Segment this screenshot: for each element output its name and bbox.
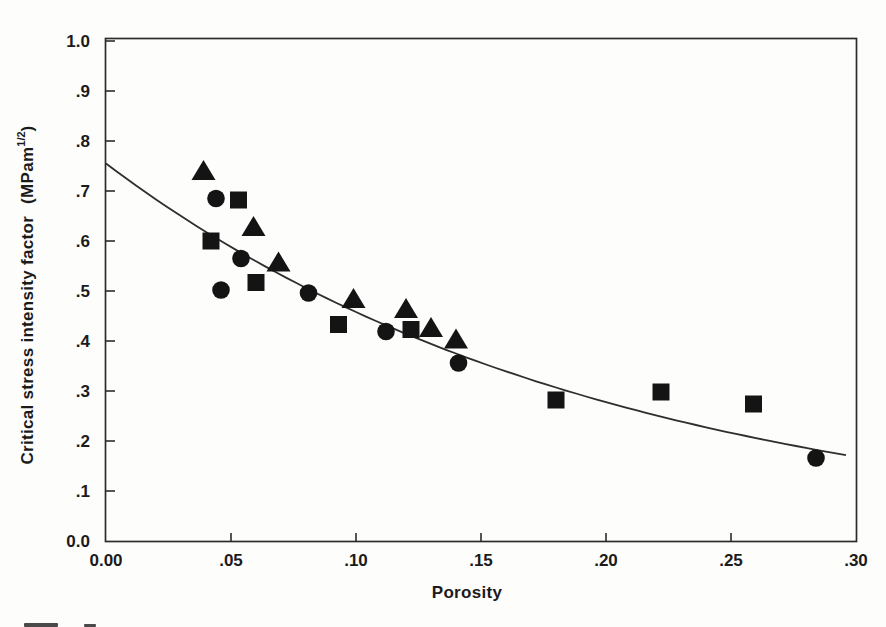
y-tick-label: .9 <box>76 82 90 101</box>
y-axis-title-text: Critical stress intensity factor <box>18 216 37 465</box>
x-tick-label: .05 <box>219 551 243 570</box>
data-point-circle <box>450 354 468 372</box>
y-tick-label: .3 <box>76 382 90 401</box>
data-point-square <box>745 396 762 413</box>
data-point-circle <box>207 190 225 208</box>
y-tick-label: .4 <box>76 332 91 351</box>
data-point-triangle <box>242 216 266 236</box>
x-tick-label: .10 <box>344 551 368 570</box>
y-tick-label: 0.0 <box>66 532 90 551</box>
x-axis-title: Porosity <box>106 583 828 603</box>
y-tick-label: .1 <box>76 482 90 501</box>
y-axis-units-exponent: 1/2 <box>15 131 27 146</box>
y-axis-units-close: ) <box>18 125 37 131</box>
data-point-triangle <box>419 317 443 337</box>
y-tick-label: .8 <box>76 132 90 151</box>
data-point-triangle <box>342 288 366 308</box>
y-axis-units-open: (MPam <box>18 147 37 204</box>
data-point-circle <box>232 250 250 268</box>
y-tick-label: 1.0 <box>66 32 90 51</box>
data-point-square <box>203 233 220 250</box>
data-point-circle <box>300 284 318 302</box>
data-point-square <box>330 316 347 333</box>
data-point-square <box>653 384 670 401</box>
y-tick-label: .2 <box>76 432 90 451</box>
data-point-triangle <box>444 329 468 349</box>
cropped-caption-fragment <box>24 623 58 627</box>
data-point-circle <box>807 449 825 467</box>
y-axis-title: Critical stress intensity factor(MPam1/2… <box>16 125 38 464</box>
x-tick-label: .25 <box>719 551 743 570</box>
y-tick-label: .6 <box>76 232 90 251</box>
x-tick-label: .15 <box>469 551 493 570</box>
x-tick-label: 0.00 <box>89 551 122 570</box>
data-point-square <box>403 321 420 338</box>
x-tick-label: .30 <box>844 551 868 570</box>
x-tick-label: .20 <box>594 551 618 570</box>
y-tick-label: .7 <box>76 182 90 201</box>
scatter-plot: 0.00.05.10.15.20.25.300.0.1.2.3.4.5.6.7.… <box>0 0 886 627</box>
scanned-figure-page: 0.00.05.10.15.20.25.300.0.1.2.3.4.5.6.7.… <box>0 0 886 627</box>
y-tick-label: .5 <box>76 282 90 301</box>
data-point-triangle <box>394 298 418 318</box>
data-point-triangle <box>267 252 291 272</box>
data-point-square <box>230 192 247 209</box>
data-point-circle <box>377 323 395 341</box>
data-point-square <box>548 392 565 409</box>
data-point-square <box>248 274 265 291</box>
data-point-triangle <box>192 160 216 180</box>
data-point-circle <box>212 281 230 299</box>
